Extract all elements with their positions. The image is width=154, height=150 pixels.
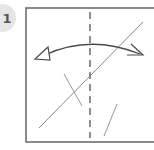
fold-diagram (0, 0, 154, 150)
fold-diagram-canvas: 1 (0, 0, 154, 150)
